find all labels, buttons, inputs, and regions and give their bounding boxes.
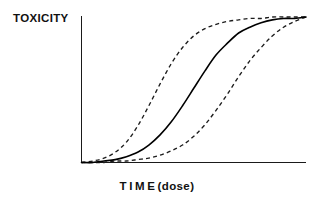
y-axis-label: TOXICITY [13, 12, 69, 24]
x-axis-label-sub: (dose) [157, 180, 194, 192]
toxicity-time-figure: TOXICITY TIME(dose) [0, 0, 314, 202]
plot-area [0, 0, 314, 202]
curve-slow-onset-dashed [82, 17, 307, 163]
curve-typical-solid [82, 17, 307, 163]
x-axis-label-main: TIME [120, 180, 158, 192]
x-axis-label: TIME(dose) [0, 180, 314, 192]
